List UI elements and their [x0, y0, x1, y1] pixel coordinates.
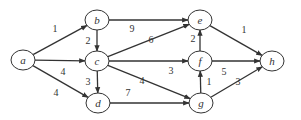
node-label: d: [95, 97, 101, 109]
edge-weight-c-g: 4: [140, 75, 145, 86]
edge-weight-f-e: 2: [191, 33, 196, 44]
node-a: a: [11, 50, 35, 70]
edge-a-c: [35, 60, 85, 61]
edge-weight-b-c: 2: [86, 35, 91, 46]
node-h: h: [260, 51, 284, 71]
node-e: e: [188, 10, 212, 30]
edge-weight-a-c: 4: [61, 66, 66, 77]
edge-weight-e-h: 1: [242, 24, 247, 35]
node-d: d: [86, 93, 110, 113]
node-label: a: [20, 54, 26, 66]
node-b: b: [85, 10, 109, 30]
node-label: b: [94, 14, 100, 26]
edge-c-g: [108, 65, 190, 98]
edge-g-f: [200, 71, 201, 93]
weighted-directed-graph: abcdefgh 144293634725113: [0, 0, 301, 120]
node-g: g: [189, 93, 213, 113]
edge-weight-d-g: 7: [126, 87, 131, 98]
edge-a-b: [33, 25, 87, 54]
edge-c-d: [97, 71, 98, 93]
edge-weight-c-f: 3: [169, 65, 174, 76]
edge-weight-a-b: 1: [53, 23, 58, 34]
edge-weight-c-d: 3: [86, 76, 91, 87]
edge-weight-f-h: 5: [222, 66, 227, 77]
edge-weight-a-d: 4: [54, 87, 59, 98]
node-label: h: [269, 55, 275, 67]
node-c: c: [85, 51, 109, 71]
edge-weight-g-f: 1: [207, 76, 212, 87]
node-label: g: [198, 97, 204, 109]
edge-weight-g-h: 3: [236, 76, 241, 87]
node-label: c: [95, 55, 100, 67]
node-label: e: [198, 14, 203, 26]
edge-weight-c-e: 6: [149, 34, 154, 45]
edge-e-h: [210, 26, 262, 56]
node-f: f: [188, 51, 212, 71]
edge-weight-b-e: 9: [130, 23, 135, 34]
edges: [33, 20, 262, 103]
